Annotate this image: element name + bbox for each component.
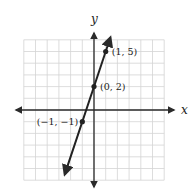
point-label: (1, 5): [112, 46, 138, 57]
coordinate-plane: x y (1, 5)(0, 2)(−1, −1): [0, 0, 195, 190]
plotted-line: [65, 37, 111, 174]
data-point: [91, 84, 96, 89]
x-axis-label: x: [181, 103, 188, 117]
y-axis-label: y: [90, 12, 98, 26]
point-label: (−1, −1): [37, 116, 78, 127]
data-point: [103, 49, 108, 54]
data-point: [80, 119, 85, 124]
point-label: (0, 2): [100, 81, 126, 92]
